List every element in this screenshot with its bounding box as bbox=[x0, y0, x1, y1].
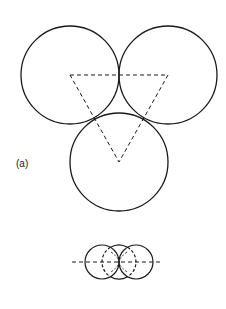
figure-label: (a) bbox=[16, 158, 28, 169]
top-view bbox=[21, 26, 217, 211]
side-circle-middle-bottom bbox=[111, 277, 128, 279]
dashed-triangle bbox=[70, 75, 168, 162]
diagram-canvas bbox=[0, 0, 226, 309]
side-circle-middle-top bbox=[111, 245, 128, 247]
side-view bbox=[72, 245, 163, 279]
